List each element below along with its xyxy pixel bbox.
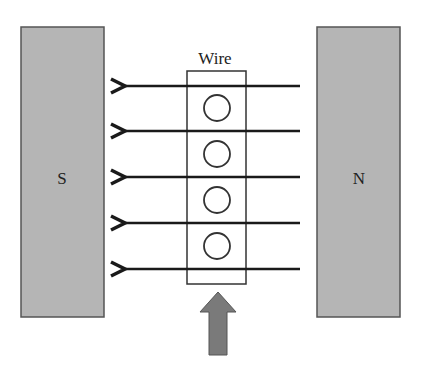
current-out-icon <box>204 187 230 213</box>
force-arrow-up-icon <box>200 292 236 355</box>
current-out-icon <box>204 95 230 121</box>
south-pole-label: S <box>57 169 66 188</box>
current-out-icon <box>204 141 230 167</box>
south-magnet: S <box>21 27 104 317</box>
north-magnet: N <box>317 27 400 317</box>
wire-label: Wire <box>198 49 231 68</box>
north-pole-label: N <box>353 169 365 188</box>
magnetic-force-diagram: S N Wire <box>0 0 423 371</box>
magnetic-field-lines <box>125 86 300 269</box>
current-out-icon <box>204 233 230 259</box>
